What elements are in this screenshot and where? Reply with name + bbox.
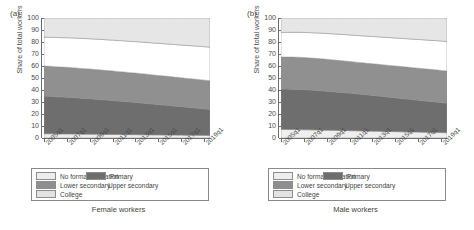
y-tick-label: 90 xyxy=(10,26,39,33)
panel-a-y-tick-labels: 0102030405060708090100 xyxy=(10,18,39,138)
legend-swatch xyxy=(273,172,293,180)
panel-b-legend: No formal educationPrimaryLower secondar… xyxy=(268,168,446,201)
legend-swatch xyxy=(273,181,293,189)
y-tick-label: 100 xyxy=(10,14,39,21)
legend-label: College xyxy=(60,190,82,199)
panel-b-y-tick-labels: 0102030405060708090100 xyxy=(247,18,276,138)
panel-b-plot xyxy=(281,18,447,138)
y-tick-label: 50 xyxy=(247,74,276,81)
legend-label: Upper secondary xyxy=(108,181,158,190)
legend-swatch-empty xyxy=(86,182,104,188)
legend-entry: Lower secondary xyxy=(273,181,323,190)
y-tick-label: 70 xyxy=(247,50,276,57)
legend-swatch xyxy=(86,172,106,180)
y-tick-label: 70 xyxy=(10,50,39,57)
legend-swatch xyxy=(273,190,293,198)
y-tick-label: 20 xyxy=(247,110,276,117)
y-tick-label: 30 xyxy=(247,98,276,105)
y-tick-label: 40 xyxy=(247,86,276,93)
legend-swatch xyxy=(36,181,56,189)
y-tick-label: 0 xyxy=(10,134,39,141)
panel-a-x-tick-labels: 2005q12007q12009q12011q12013q12015q12017… xyxy=(44,141,224,167)
legend-label: Upper secondary xyxy=(345,181,395,190)
legend-entry: No formal education xyxy=(36,172,86,181)
legend-swatch xyxy=(36,190,56,198)
y-tick-label: 10 xyxy=(247,122,276,129)
panel-a-plot-area xyxy=(44,18,210,138)
legend-label: Primary xyxy=(110,172,133,181)
y-tick-label: 30 xyxy=(10,98,39,105)
y-tick-label: 80 xyxy=(10,38,39,45)
y-tick-label: 10 xyxy=(10,122,39,129)
legend-entry: Primary xyxy=(323,172,443,181)
figure-two-panel-stacked-area: (a) Share of total workers 0102030405060… xyxy=(0,0,474,230)
panel-a-caption: Female workers xyxy=(0,205,237,214)
y-tick-label: 50 xyxy=(10,74,39,81)
panel-a-plot xyxy=(44,18,210,138)
legend-entry: College xyxy=(36,190,86,199)
panel-a-area-series xyxy=(44,18,210,138)
legend-label: College xyxy=(297,190,319,199)
y-tick-label: 90 xyxy=(247,26,276,33)
legend-entry: No formal education xyxy=(273,172,323,181)
y-tick-label: 80 xyxy=(247,38,276,45)
y-tick-label: 20 xyxy=(10,110,39,117)
legend-label: Primary xyxy=(347,172,370,181)
panel-b-plot-area xyxy=(281,18,447,138)
panel-b-caption: Male workers xyxy=(237,205,474,214)
y-tick-label: 100 xyxy=(247,14,276,21)
panel-b-x-tick-labels: 2005q12007q12009q12011q12013q12015q12017… xyxy=(281,141,461,167)
legend-entry: Primary xyxy=(86,172,206,181)
y-tick-label: 60 xyxy=(10,62,39,69)
y-tick-label: 60 xyxy=(247,62,276,69)
panel-b-male-workers: (b) Share of total workers 0102030405060… xyxy=(237,0,474,230)
legend-entry: Upper secondary xyxy=(86,181,206,190)
legend-entry: College xyxy=(273,190,323,199)
legend-swatch xyxy=(36,172,56,180)
panel-a-female-workers: (a) Share of total workers 0102030405060… xyxy=(0,0,237,230)
panel-a-legend: No formal educationPrimaryLower secondar… xyxy=(31,168,209,201)
legend-swatch-empty xyxy=(323,182,341,188)
legend-entry xyxy=(323,190,443,199)
y-tick-label: 0 xyxy=(247,134,276,141)
legend-swatch xyxy=(323,172,343,180)
y-tick-label: 40 xyxy=(10,86,39,93)
legend-entry: Upper secondary xyxy=(323,181,443,190)
legend-entry xyxy=(86,190,206,199)
legend-entry: Lower secondary xyxy=(36,181,86,190)
panel-b-area-series xyxy=(281,18,447,138)
